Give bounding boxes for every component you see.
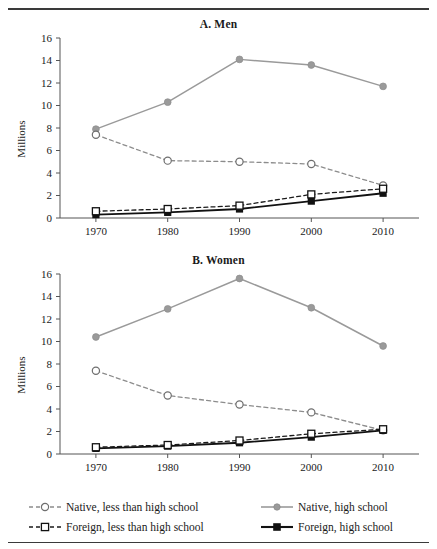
svg-text:2010: 2010: [372, 225, 395, 237]
svg-text:8: 8: [47, 358, 53, 370]
legend-item-foreign-hs: Foreign, high school: [260, 517, 437, 537]
svg-text:1980: 1980: [157, 461, 180, 473]
svg-text:10: 10: [41, 335, 53, 347]
legend-label-native-lths: Native, less than high school: [66, 500, 199, 514]
legend-item-native-lths: Native, less than high school: [28, 497, 260, 517]
svg-text:10: 10: [41, 99, 53, 111]
panel-b-plot: Millions 0246810121416197019801990200020…: [0, 268, 437, 482]
legend-label-native-hs: Native, high school: [298, 500, 388, 514]
svg-text:8: 8: [47, 122, 53, 134]
legend-label-foreign-hs: Foreign, high school: [298, 520, 393, 534]
panel-women: B. Women Millions 0246810121416197019801…: [0, 252, 437, 487]
bottom-rule: [8, 542, 429, 543]
legend-item-native-hs: Native, high school: [260, 497, 437, 517]
svg-text:1990: 1990: [229, 225, 252, 237]
legend-label-foreign-lths: Foreign, less than high school: [66, 520, 204, 534]
svg-text:12: 12: [41, 77, 52, 89]
svg-text:1990: 1990: [229, 461, 252, 473]
svg-text:0: 0: [47, 212, 53, 224]
legend-swatch-open-circle-dashed: [28, 500, 62, 514]
svg-text:14: 14: [41, 54, 53, 66]
svg-text:0: 0: [47, 448, 53, 460]
panel-a-title: A. Men: [0, 16, 437, 32]
svg-text:2000: 2000: [300, 225, 323, 237]
svg-text:4: 4: [47, 403, 53, 415]
svg-text:16: 16: [41, 32, 53, 44]
svg-text:14: 14: [41, 290, 53, 302]
panel-a-svg: 024681012141619701980199020002010: [0, 32, 437, 246]
svg-text:6: 6: [47, 144, 53, 156]
top-rule: [8, 8, 429, 10]
svg-text:2: 2: [47, 425, 53, 437]
panel-a-plot: Millions 0246810121416197019801990200020…: [0, 32, 437, 246]
legend-swatch-open-square-dashed: [28, 520, 62, 534]
panel-b-title: B. Women: [0, 252, 437, 268]
svg-text:1970: 1970: [85, 461, 108, 473]
panel-b-svg: 024681012141619701980199020002010: [0, 268, 437, 482]
legend-item-foreign-lths: Foreign, less than high school: [28, 517, 260, 537]
svg-text:2000: 2000: [300, 461, 323, 473]
legend-swatch-filled-square-solid: [260, 520, 294, 534]
panel-men: A. Men Millions 024681012141619701980199…: [0, 16, 437, 248]
svg-text:1970: 1970: [85, 225, 108, 237]
svg-text:16: 16: [41, 268, 53, 280]
figure-legend: Native, less than high school Native, hi…: [0, 497, 437, 541]
svg-text:6: 6: [47, 380, 53, 392]
svg-text:2010: 2010: [372, 461, 395, 473]
svg-text:12: 12: [41, 313, 52, 325]
svg-text:1980: 1980: [157, 225, 180, 237]
figure-page: A. Men Millions 024681012141619701980199…: [0, 0, 437, 549]
legend-swatch-filled-circle-solid: [260, 500, 294, 514]
svg-text:4: 4: [47, 167, 53, 179]
svg-text:2: 2: [47, 189, 53, 201]
